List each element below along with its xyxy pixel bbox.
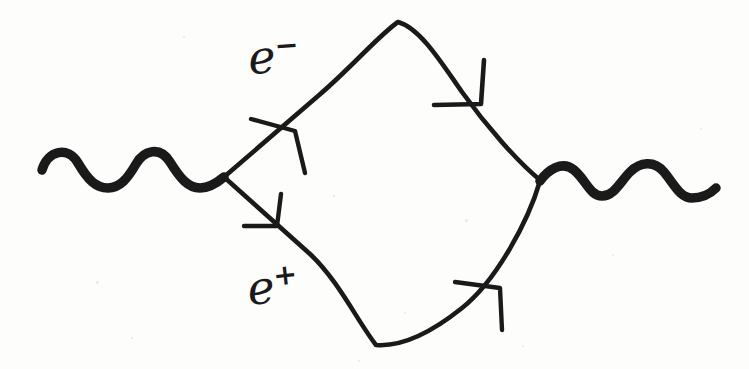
electron-label-base: e — [246, 29, 277, 85]
paper-speck — [96, 281, 99, 284]
positron-label-charge: + — [271, 257, 298, 293]
arrow-upper-right-icon — [434, 60, 484, 105]
positron-label: e+ — [245, 259, 300, 311]
paper-speck — [358, 360, 360, 362]
paper-speck — [183, 36, 185, 38]
diagram-canvas: e− e+ — [0, 0, 749, 369]
paper-speck — [700, 128, 702, 130]
paper-speck — [465, 219, 468, 222]
photon-in-wavy-line — [42, 152, 224, 188]
paper-speck — [522, 345, 524, 347]
paper-speck — [269, 64, 271, 66]
photon-out-wavy-line — [540, 164, 716, 198]
electron-label: e− — [246, 30, 300, 81]
paper-speck — [333, 195, 335, 197]
paper-speck — [612, 254, 614, 256]
paper-speck — [131, 337, 133, 339]
electron-label-charge: − — [273, 27, 299, 63]
feynman-diagram — [0, 0, 749, 369]
paper-speck — [275, 44, 277, 46]
paper-speck — [404, 312, 406, 314]
